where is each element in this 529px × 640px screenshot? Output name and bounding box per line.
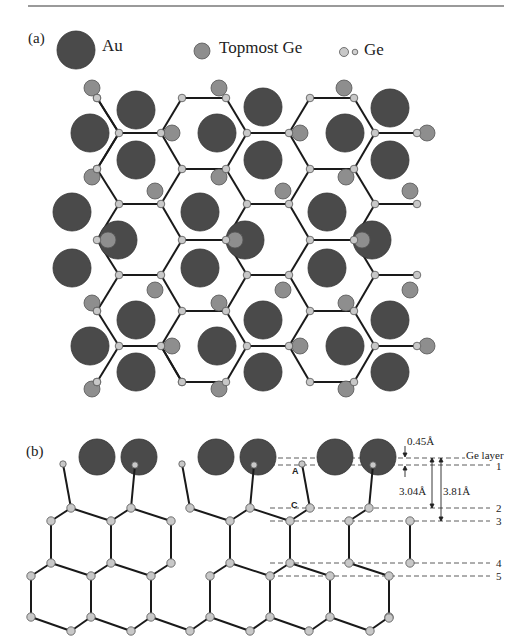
bond — [161, 169, 182, 204]
ge-atom — [370, 462, 376, 468]
ge-atom — [266, 572, 274, 580]
ge-atom — [222, 307, 230, 315]
ge-atom — [93, 307, 101, 315]
ge-atom — [107, 517, 115, 525]
ge-atom — [157, 342, 165, 350]
ge-atom — [366, 627, 374, 635]
ge-atom — [222, 165, 230, 173]
atom-label-a: A — [292, 466, 299, 476]
au-atom — [79, 439, 115, 475]
ge-atom — [350, 307, 358, 315]
ge-atom — [345, 517, 353, 525]
bond — [354, 275, 375, 311]
au-atom — [371, 353, 409, 391]
au-atom — [244, 301, 282, 339]
ge-atom — [286, 517, 294, 525]
au-atom — [244, 88, 282, 126]
ge-atom — [178, 236, 186, 244]
ge-atom — [306, 307, 314, 315]
legend-au-icon — [57, 31, 95, 69]
ge-atom — [385, 572, 393, 580]
topmost-ge-atom — [147, 183, 163, 199]
ge-atom — [27, 572, 35, 580]
bond — [226, 169, 247, 204]
au-atom — [326, 114, 364, 152]
ge-atom — [413, 200, 421, 208]
topmost-ge-atom — [336, 80, 352, 96]
ge-atom — [157, 271, 165, 279]
ge-atom — [47, 517, 55, 525]
legend-ge-large-icon — [340, 48, 349, 57]
bond — [111, 563, 151, 576]
ge-atom — [251, 462, 257, 468]
ge-atom — [350, 94, 358, 102]
bond — [31, 617, 71, 631]
au-atom — [71, 327, 109, 365]
ge-atom — [206, 572, 214, 580]
au-atom — [244, 353, 282, 391]
ge-atom — [93, 94, 101, 102]
ge-atom — [67, 627, 75, 635]
au-atom — [53, 193, 91, 231]
ge-atom — [87, 613, 95, 621]
au-atom — [371, 89, 409, 127]
ge-atom — [306, 236, 314, 244]
bond — [190, 508, 230, 521]
bond — [289, 240, 310, 275]
ge-atom — [186, 504, 194, 512]
bond — [97, 275, 119, 311]
ge-atom — [93, 378, 101, 386]
bond — [354, 169, 375, 204]
au-atom — [198, 439, 234, 475]
ge-atom — [350, 236, 358, 244]
bond — [63, 464, 71, 508]
ge-atom — [306, 165, 314, 173]
ge-atom — [186, 627, 194, 635]
ge-atom — [246, 627, 254, 635]
ge-atom — [326, 613, 334, 621]
ge-atom — [350, 378, 358, 386]
ge-atom — [157, 129, 165, 137]
ge-atom — [371, 342, 379, 350]
ge-atom — [299, 461, 305, 467]
bond — [91, 617, 131, 631]
atom-label-c: C — [291, 500, 298, 510]
au-atom — [181, 249, 219, 287]
bond — [349, 563, 389, 576]
bond — [97, 169, 119, 204]
dimension-3-04: 3.04Å — [399, 485, 426, 497]
ge-atom — [157, 200, 165, 208]
layer-label-4: 4 — [496, 557, 502, 569]
panel-b-label: (b) — [26, 443, 44, 460]
bond — [289, 204, 310, 240]
ge-atom — [178, 94, 186, 102]
au-atom — [181, 193, 219, 231]
bond — [330, 617, 370, 631]
ge-atom — [147, 613, 155, 621]
panel-b-ge-lattice-bonds — [31, 464, 410, 631]
ge-atom — [413, 342, 421, 350]
ge-atom — [406, 559, 414, 567]
ge-atom — [167, 517, 175, 525]
ge-atom — [115, 200, 123, 208]
topmost-ge-atom — [402, 282, 418, 298]
au-atom — [198, 114, 236, 152]
ge-atom — [226, 517, 234, 525]
au-atom — [121, 439, 157, 475]
au-atom — [360, 439, 396, 475]
au-atom — [371, 301, 409, 339]
au-atom — [117, 91, 155, 129]
ge-atom — [413, 271, 421, 279]
au-atom — [53, 249, 91, 287]
panel-b-au-atoms — [79, 439, 396, 475]
au-atom — [308, 193, 346, 231]
ge-atom — [222, 94, 230, 102]
topmost-ge-atom — [292, 125, 308, 141]
ge-atom — [345, 559, 353, 567]
topmost-ge-atom — [100, 232, 116, 248]
legend-au-label: Au — [102, 36, 123, 56]
ge-atom — [371, 271, 379, 279]
ge-atom — [127, 627, 135, 635]
bond — [131, 508, 171, 521]
ge-atom — [371, 129, 379, 137]
